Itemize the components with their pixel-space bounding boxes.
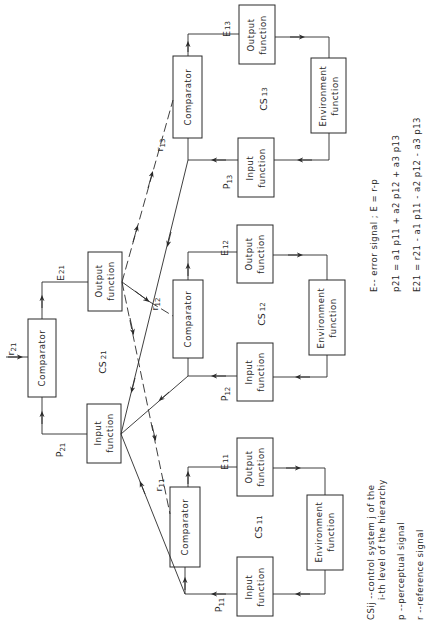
cs11-output-label-2: function xyxy=(256,447,266,487)
r13-arrow-2 xyxy=(148,174,152,188)
cs12-env-input-wire xyxy=(273,355,327,377)
cs11-input-label-1: Input xyxy=(244,574,254,599)
control-hierarchy-diagram: Comparator Output function Environment f… xyxy=(0,0,431,631)
cs13-output-function-box xyxy=(239,5,275,64)
r12-arrow xyxy=(135,291,147,300)
r12-label: r12 xyxy=(149,298,162,311)
cs11-output-function-box xyxy=(237,438,273,496)
cs11-env-input-wire xyxy=(273,570,325,594)
cs12-output-label-2: function xyxy=(256,234,266,274)
cs12-comparator-label: Comparator xyxy=(183,291,193,348)
cs13-error-label: E13 xyxy=(221,21,232,37)
cs12-error-label: E12 xyxy=(219,240,230,256)
equations: E-- error signal ; E = r-p p21 = a1 p11 … xyxy=(369,117,422,292)
cs21-error-wire xyxy=(42,282,88,319)
r13-dashed-link xyxy=(122,100,173,282)
cs11-environment-label-1: Environment xyxy=(314,501,324,562)
cs13-input-label-1: Input xyxy=(245,155,255,180)
cs12-perceptual-wire xyxy=(188,358,237,376)
legend: CSij --control system j of the i-th leve… xyxy=(366,479,425,620)
cs12-environment-label-2: function xyxy=(328,298,338,338)
cs13-input-function-box xyxy=(238,138,274,197)
cs21-system-label: CS21 xyxy=(97,350,108,374)
cs11-output-env-wire xyxy=(273,468,325,495)
equation-p21: p21 = a1 p11 + a2 p12 + a3 p13 xyxy=(391,135,401,292)
cs13-environment-label-1: Environment xyxy=(318,65,328,126)
cs13-perceptual-wire xyxy=(188,138,238,160)
cs11-environment-function-box xyxy=(307,495,343,570)
cs13-perceptual-label: P13 xyxy=(221,175,234,190)
legend-csij-line-1: CSij --control system j of the xyxy=(366,485,376,620)
cs12-perceptual-label: P12 xyxy=(219,387,232,402)
cs12-system-label: CS12 xyxy=(256,302,267,326)
cs13-input-label-2: function xyxy=(257,148,267,188)
cs13-environment-label-2: function xyxy=(330,76,340,116)
p12-link xyxy=(121,376,188,434)
cs12-input-label-1: Input xyxy=(244,359,254,384)
cs21-output-label-2: function xyxy=(106,261,116,301)
cs11-comparator-label: Comparator xyxy=(180,499,190,556)
equation-e21: E21 = r21 - a1 p11 - a2 p12 - a3 p13 xyxy=(412,117,422,292)
cs12-output-env-wire xyxy=(273,255,327,280)
cs12-input-label-2: function xyxy=(256,352,266,392)
cs11-output-label-1: Output xyxy=(244,450,254,483)
reference-links xyxy=(122,100,173,514)
cs12-environment-function-box xyxy=(309,280,345,355)
legend-perceptual: p --perceptual signal xyxy=(396,522,406,620)
r13-label: r13 xyxy=(154,139,167,152)
cs11-input-label-2: function xyxy=(256,567,266,607)
legend-csij-line-2: i-th level of the hierarchy xyxy=(377,479,387,600)
legend-reference: r --reference signal xyxy=(415,529,425,620)
r21-label: r21 xyxy=(5,343,18,356)
cs11-input-function-box xyxy=(237,557,273,616)
cs11-perceptual-label: P11 xyxy=(213,598,226,613)
cs13-env-input-wire xyxy=(274,133,329,160)
cs11-environment-label-2: function xyxy=(326,512,336,552)
cs21-perceptual-label: P21 xyxy=(54,443,67,458)
r13-arrow-1 xyxy=(133,228,137,242)
cs13-system-label: CS13 xyxy=(258,87,269,111)
cs12-output-label-1: Output xyxy=(244,237,254,270)
cs13-output-label-2: function xyxy=(258,15,268,55)
cs13-environment-function-box xyxy=(311,58,346,133)
p12-arrow xyxy=(161,392,169,399)
cs21-input-label-1: Input xyxy=(93,420,103,445)
cs21-perceptual-wire xyxy=(42,397,87,434)
cs13-output-label-1: Output xyxy=(246,18,256,51)
cs11-perceptual-wire xyxy=(185,567,237,594)
cs12-input-function-box xyxy=(237,343,273,401)
cs21-input-label-2: function xyxy=(105,413,115,453)
cs11-error-label: E11 xyxy=(219,454,230,470)
cs11-system-label: CS11 xyxy=(253,515,264,539)
cs12-output-function-box xyxy=(237,225,273,283)
cs21-output-label-1: Output xyxy=(94,264,104,297)
cs12-environment-label-1: Environment xyxy=(316,287,326,348)
equation-error-definition: E-- error signal ; E = r-p xyxy=(369,179,379,292)
p13-arrow-2 xyxy=(132,378,135,390)
p11-arrow xyxy=(141,484,145,494)
cs13-output-env-wire xyxy=(275,37,329,58)
cs21-comparator-label: Comparator xyxy=(37,330,47,387)
r11-label: r11 xyxy=(153,479,166,492)
cs13-comparator-label: Comparator xyxy=(183,69,193,126)
cs21-error-label: E21 xyxy=(55,265,66,281)
